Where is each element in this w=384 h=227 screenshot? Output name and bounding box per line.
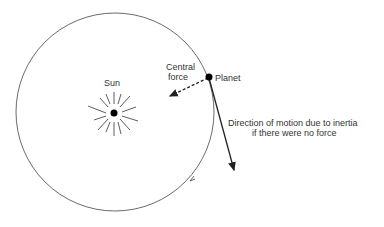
orbit-direction-arrow-icon	[190, 176, 195, 181]
inertia-label-line1: Direction of motion due to inertia	[228, 118, 358, 128]
central-force-label-line2: force	[168, 72, 188, 82]
inertia-label-line2: if there were no force	[252, 128, 337, 138]
sun-icon	[111, 110, 118, 117]
sun-label: Sun	[104, 78, 120, 88]
planet-icon	[206, 74, 213, 81]
central-force-label-line1: Central	[166, 62, 195, 72]
planet-label: Planet	[215, 73, 241, 83]
orbit-diagram	[0, 0, 384, 227]
